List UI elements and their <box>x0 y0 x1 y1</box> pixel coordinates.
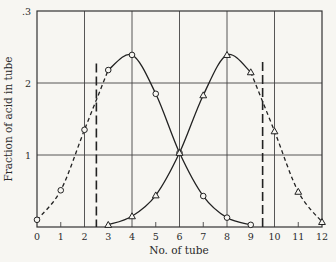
circle-marker <box>153 91 159 97</box>
triangle-marker <box>129 213 136 219</box>
circle-marker <box>58 187 64 193</box>
x-tick-label: 8 <box>224 231 230 242</box>
triangle-marker <box>200 92 207 98</box>
x-axis-label: No. of tube <box>149 244 208 256</box>
x-tick-labels: 0123456789101112 <box>34 231 328 242</box>
x-tick-label: 5 <box>153 231 159 242</box>
x-tick-label: 4 <box>129 231 135 242</box>
x-tick-label: 3 <box>105 231 111 242</box>
x-tick-label: 9 <box>248 231 254 242</box>
gridlines <box>37 11 322 227</box>
series-line-dashed <box>251 72 322 222</box>
x-tick-label: 1 <box>58 231 64 242</box>
circle-marker <box>129 52 135 58</box>
circle-marker <box>82 127 88 133</box>
x-tick-label: 10 <box>268 231 280 242</box>
x-tick-label: 6 <box>176 231 182 242</box>
series-line-dashed <box>37 70 108 220</box>
y-tick-label: .3 <box>22 6 31 17</box>
y-tick-labels: 12.3 <box>22 6 31 161</box>
y-tick-label: 2 <box>25 78 31 89</box>
y-tick-label: 1 <box>25 150 31 161</box>
x-tick-label: 0 <box>34 231 40 242</box>
x-tick-label: 12 <box>316 231 328 242</box>
triangle-marker <box>295 188 302 194</box>
circle-marker <box>200 193 206 199</box>
triangle-marker <box>271 128 278 134</box>
x-tick-label: 7 <box>200 231 206 242</box>
x-tick-label: 2 <box>81 231 87 242</box>
circle-marker <box>248 222 254 228</box>
circle-marker <box>34 217 40 223</box>
circle-marker <box>105 67 111 73</box>
chart: 0123456789101112 12.3 No. of tube Fracti… <box>0 0 336 262</box>
circle-marker <box>224 215 230 221</box>
y-axis-label: Fraction of acid in tube <box>2 57 14 182</box>
x-tick-label: 11 <box>292 231 304 242</box>
